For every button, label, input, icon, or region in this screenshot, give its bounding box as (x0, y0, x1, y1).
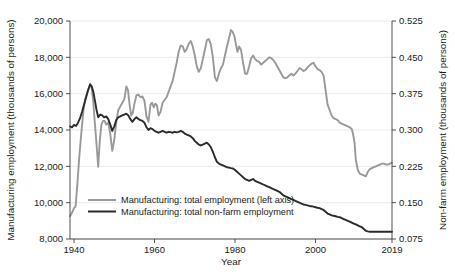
y-tick-label: 14,000 (34, 124, 63, 135)
x-tick-label: 1960 (144, 244, 165, 255)
legend-label-1: Manufacturing: total non-farm employment (121, 207, 294, 217)
legend-label-0: Manufacturing: total employment (left ax… (121, 195, 294, 205)
y2-tick-label: 0.300 (399, 124, 423, 135)
y2-tick-label: 0.150 (399, 197, 423, 208)
y2-tick-label: 0.075 (399, 233, 423, 244)
y2-tick-label: 0.450 (399, 52, 423, 63)
y-tick-label: 18,000 (34, 52, 63, 63)
y-tick-label: 10,000 (34, 197, 63, 208)
y2-tick-label: 0.375 (399, 88, 423, 99)
x-axis-title: Year (221, 256, 242, 267)
y2-tick-label: 0.525 (399, 15, 423, 26)
x-tick-label: 2019 (381, 244, 402, 255)
chart-figure: 8,00010,00012,00014,00016,00018,00020,00… (0, 0, 455, 272)
y2-tick-label: 0.225 (399, 161, 423, 172)
y-tick-label: 8,000 (39, 233, 63, 244)
x-tick-label: 2000 (305, 244, 326, 255)
y-tick-label: 16,000 (34, 88, 63, 99)
x-tick-label: 1940 (63, 244, 84, 255)
x-tick-label: 1980 (224, 244, 245, 255)
y-tick-label: 12,000 (34, 161, 63, 172)
employment-line-chart: 8,00010,00012,00014,00016,00018,00020,00… (0, 0, 455, 272)
y-axis-title: Manufacturing employment (thousands of p… (5, 19, 16, 240)
y-tick-label: 20,000 (34, 15, 63, 26)
y2-axis-title: Non-farm employment (thousands of person… (437, 30, 448, 230)
